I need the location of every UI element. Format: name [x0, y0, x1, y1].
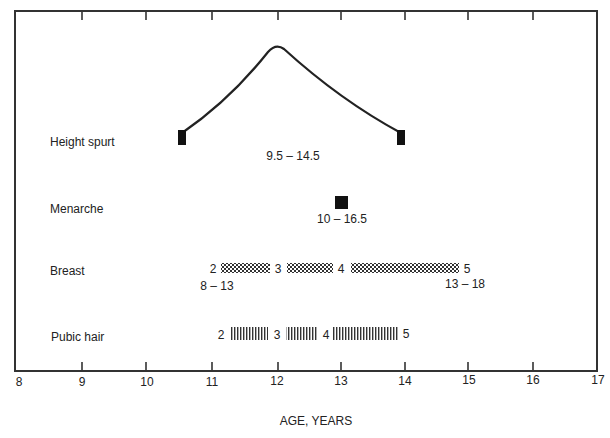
- breast-stage-3-label: 3: [275, 262, 282, 276]
- row-label-menarche: Menarche: [50, 202, 104, 216]
- pubic-stage-2-label: 2: [218, 328, 225, 342]
- breast-bar-stage-2-3: [221, 263, 270, 273]
- x-tick-16: 16: [526, 373, 540, 387]
- pubic-bar-stage-4-5: [333, 327, 398, 340]
- x-tick-15: 15: [462, 373, 476, 387]
- breast-stage-4-label: 4: [338, 262, 345, 276]
- x-tick-13: 13: [334, 374, 348, 388]
- height-spurt-curve: [178, 47, 405, 145]
- row-label-height-spurt: Height spurt: [50, 135, 115, 149]
- x-tick-12: 12: [270, 374, 284, 388]
- pubic-hair-stage-bars: 2 3 4 5: [218, 327, 410, 342]
- x-tick-17: 17: [591, 373, 605, 387]
- breast-stage-2-label: 2: [210, 262, 217, 276]
- menarche-marker: [335, 196, 348, 209]
- x-tick-9: 9: [79, 375, 86, 389]
- breast-end-range: 13 – 18: [445, 277, 485, 291]
- bottom-axis-ticks: [82, 362, 533, 371]
- breast-stage-bars: 2 3 4 5: [210, 262, 471, 276]
- pubic-bar-stage-2-3: [230, 327, 268, 340]
- x-tick-11: 11: [206, 375, 219, 389]
- row-label-pubic-hair: Pubic hair: [51, 330, 104, 344]
- x-tick-10: 10: [140, 375, 154, 389]
- height-spurt-range: 9.5 – 14.5: [266, 149, 320, 163]
- top-axis-ticks: [82, 12, 533, 20]
- breast-start-range: 8 – 13: [200, 279, 234, 293]
- breast-bar-stage-4-5: [351, 263, 459, 273]
- height-spurt-end-marker: [397, 130, 405, 145]
- x-tick-14: 14: [398, 374, 412, 388]
- pubic-bar-stage-3-4: [286, 327, 318, 340]
- height-spurt-start-marker: [178, 130, 186, 145]
- breast-stage-5-label: 5: [464, 262, 471, 276]
- pubic-stage-4-label: 4: [323, 328, 330, 342]
- pubic-stage-5-label: 5: [403, 327, 410, 341]
- row-label-breast: Breast: [50, 264, 85, 278]
- menarche-range: 10 – 16.5: [317, 212, 367, 226]
- pubic-stage-3-label: 3: [274, 328, 281, 342]
- row-labels: Height spurt Menarche Breast Pubic hair: [50, 135, 115, 344]
- x-tick-8: 8: [16, 375, 23, 389]
- x-axis-tick-labels: 8 9 10 11 12 13 14 15 16 17: [16, 373, 605, 389]
- x-axis-title: AGE, YEARS: [280, 414, 352, 428]
- breast-bar-stage-3-4: [287, 263, 333, 273]
- pubertal-events-chart: 8 9 10 11 12 13 14 15 16 17 AGE, YEARS H…: [0, 0, 610, 438]
- plot-frame: [15, 11, 597, 371]
